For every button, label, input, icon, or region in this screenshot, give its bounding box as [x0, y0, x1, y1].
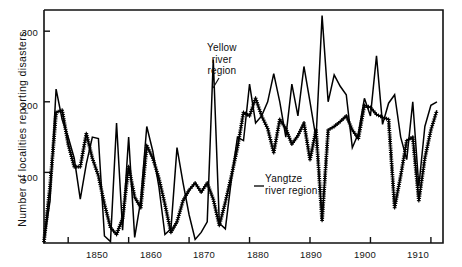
series-markers [42, 96, 438, 243]
yangtze-river-label-line1: Yangtze [265, 173, 302, 184]
x-tick-label-1860: 1860 [130, 249, 172, 260]
series-layer [42, 16, 438, 244]
yellow-river-annotation: Yellow river region [207, 42, 237, 77]
yangtze-river-curve [42, 96, 438, 243]
y-tick-label-200: 200 [14, 100, 38, 111]
yangtze-river-annotation: Yangtze river region [265, 173, 317, 196]
x-tick-label-1900: 1900 [344, 249, 386, 260]
x-tick-label-1850: 1850 [76, 249, 118, 260]
yellow-river-label-line1: Yellow [207, 42, 237, 53]
chart-figure: Number of localities reporting disasters… [0, 0, 462, 267]
y-tick-label-300: 300 [14, 27, 38, 38]
yellow-river-label-line3: region [207, 65, 236, 76]
yellow-river-label-line2: river [212, 54, 232, 65]
x-tick-label-1890: 1890 [290, 249, 332, 260]
y-axis-title: Number of localities reporting disasters [16, 4, 28, 254]
yangtze-river-label-line2: river region [265, 185, 317, 196]
plot-canvas [0, 0, 462, 267]
y-tick-label-100: 100 [14, 172, 38, 183]
x-tick-label-1880: 1880 [237, 249, 279, 260]
x-tick-label-1870: 1870 [183, 249, 225, 260]
x-tick-label-1910: 1910 [397, 249, 439, 260]
